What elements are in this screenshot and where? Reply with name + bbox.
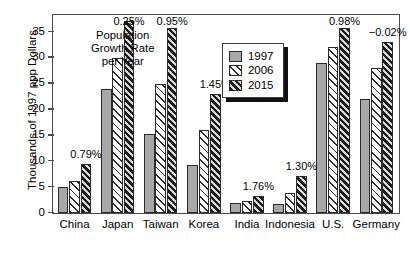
legend-swatch-2006 bbox=[229, 65, 242, 76]
y-tick-label: 0 bbox=[39, 206, 45, 218]
legend-item-1997: 1997 bbox=[229, 50, 274, 63]
bar bbox=[316, 63, 327, 213]
bar bbox=[382, 42, 393, 213]
bar bbox=[371, 68, 382, 213]
bar-group bbox=[187, 15, 220, 213]
legend-label-2015: 2015 bbox=[248, 80, 274, 91]
bar bbox=[253, 196, 264, 213]
y-tick-label: 30 bbox=[32, 50, 45, 62]
bar bbox=[199, 130, 210, 213]
legend-item-2015: 2015 bbox=[229, 79, 274, 92]
bar bbox=[69, 181, 80, 213]
bar-group bbox=[360, 15, 393, 213]
y-tick-label: 20 bbox=[32, 102, 45, 114]
legend-swatch-1997 bbox=[229, 51, 242, 62]
bar bbox=[296, 176, 307, 213]
data-annotation: 0.98% bbox=[329, 15, 360, 27]
bar bbox=[242, 201, 253, 213]
bar bbox=[81, 164, 92, 213]
data-annotation: 1.76% bbox=[243, 180, 274, 192]
plot-note: Population Growth Rate per Year bbox=[80, 29, 166, 69]
data-annotation: 0.79% bbox=[70, 148, 101, 160]
legend-swatch-2015 bbox=[229, 80, 242, 91]
bar bbox=[101, 89, 112, 213]
x-axis-label: China bbox=[60, 218, 90, 230]
plot-area: 05101520253035 0.79%0.25%0.95%1.45%1.76%… bbox=[52, 14, 400, 214]
bar bbox=[339, 28, 350, 213]
y-tick-label: 10 bbox=[32, 154, 45, 166]
bar bbox=[187, 165, 198, 213]
bar bbox=[328, 47, 339, 213]
y-tick-label: 15 bbox=[32, 128, 45, 140]
bar bbox=[230, 203, 241, 213]
legend: 1997 2006 2015 bbox=[222, 43, 284, 98]
legend-item-2006: 2006 bbox=[229, 64, 274, 77]
legend-label-1997: 1997 bbox=[248, 51, 274, 62]
x-axis-label: India bbox=[234, 218, 259, 230]
bar bbox=[58, 187, 69, 213]
bar-chart: Thousands of 1997 ppp Dollars 0510152025… bbox=[0, 0, 410, 255]
data-annotation: 0.25% bbox=[113, 15, 144, 27]
x-axis-label: Japan bbox=[102, 218, 133, 230]
x-axis-label: Germany bbox=[353, 218, 400, 230]
legend-label-2006: 2006 bbox=[248, 65, 274, 76]
bar bbox=[155, 84, 166, 213]
data-annotation: 1.30% bbox=[286, 160, 317, 172]
x-axis-label: Indonesia bbox=[265, 218, 315, 230]
data-annotation: −0.02% bbox=[369, 26, 407, 38]
data-annotation: 0.95% bbox=[157, 15, 188, 27]
x-axis-label: U.S. bbox=[322, 218, 344, 230]
bar bbox=[285, 193, 296, 213]
bar bbox=[273, 204, 284, 213]
x-axis-label: Korea bbox=[189, 218, 220, 230]
x-axis-label: Taiwan bbox=[143, 218, 179, 230]
y-tick-label: 25 bbox=[32, 76, 45, 88]
bar bbox=[112, 58, 123, 213]
bar bbox=[144, 134, 155, 213]
bar-group bbox=[316, 15, 349, 213]
y-tick-label: 35 bbox=[32, 25, 45, 37]
bar bbox=[210, 94, 221, 213]
y-tick-label: 5 bbox=[39, 180, 45, 192]
bar bbox=[360, 99, 371, 213]
bar bbox=[167, 28, 178, 213]
